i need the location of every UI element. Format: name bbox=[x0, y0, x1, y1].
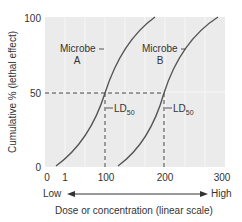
high-label: High bbox=[211, 188, 232, 199]
ld50-chart: Microbe A Microbe B LD50 LD50 100 50 0 0… bbox=[0, 0, 242, 222]
x-axis-title: Dose or concentration (linear scale) bbox=[55, 205, 213, 216]
label-microbe-b-line1: Microbe bbox=[142, 43, 178, 54]
arrow-left-icon bbox=[67, 191, 75, 197]
y-axis-title: Cumulative % (lethal effect) bbox=[7, 31, 18, 153]
x-tick-100: 100 bbox=[98, 172, 115, 183]
x-tick-300: 300 bbox=[214, 172, 231, 183]
y-tick-100: 100 bbox=[24, 13, 41, 24]
label-microbe-a-line2: A bbox=[74, 55, 81, 66]
arrow-right-icon bbox=[200, 191, 208, 197]
y-tick-50: 50 bbox=[30, 88, 42, 99]
y-tick-0: 0 bbox=[35, 162, 41, 173]
x-tick-0: 0 bbox=[44, 172, 50, 183]
low-label: Low bbox=[43, 188, 62, 199]
x-tick-1: 1 bbox=[62, 172, 68, 183]
label-microbe-b-line2: B bbox=[157, 55, 164, 66]
label-microbe-a-line1: Microbe bbox=[60, 43, 96, 54]
x-tick-200: 200 bbox=[157, 172, 174, 183]
